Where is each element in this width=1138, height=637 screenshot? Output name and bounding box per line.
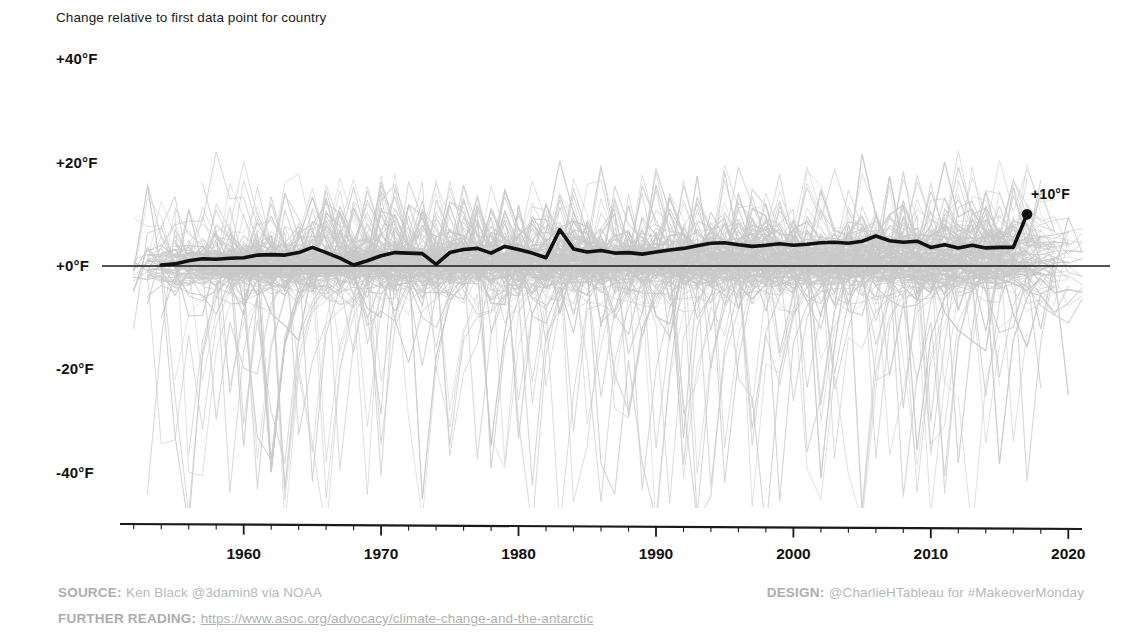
chart-footer: SOURCE: Ken Black @3damin8 via NOAA DESI…	[0, 575, 1138, 637]
x-axis-tick-label: 1980	[501, 545, 535, 563]
y-axis-tick-label: +0°F	[56, 257, 89, 274]
footer-design: DESIGN: @CharlieHTableau for #MakeoverMo…	[767, 583, 1084, 601]
footer-design-key: DESIGN:	[767, 585, 825, 600]
x-axis-tick-label: 1990	[639, 545, 673, 563]
footer-source-value: Ken Black @3damin8 via NOAA	[126, 585, 322, 600]
endpoint-value: +10°F	[1031, 186, 1070, 202]
y-axis-tick-label: -20°F	[56, 360, 94, 377]
footer-further-reading: FURTHER READING: https://www.asoc.org/ad…	[58, 609, 593, 627]
x-axis-tick-label: 2010	[914, 545, 948, 563]
footer-design-value: @CharlieHTableau for #MakeoverMonday	[829, 585, 1084, 600]
x-axis-tick-label: 1970	[364, 545, 398, 563]
footer-reading-link[interactable]: https://www.asoc.org/advocacy/climate-ch…	[201, 611, 594, 626]
x-axis-tick-label: 1960	[226, 545, 260, 563]
chart-plot-area	[0, 0, 1138, 637]
y-axis-tick-label: +20°F	[56, 154, 98, 171]
x-axis-tick-label: 2000	[776, 545, 810, 563]
y-axis-tick-label: +40°F	[56, 50, 98, 67]
footer-source-key: SOURCE:	[58, 585, 122, 600]
chart-container: Change relative to first data point for …	[0, 0, 1138, 637]
footer-reading-key: FURTHER READING:	[58, 611, 196, 626]
y-axis-tick-label: -40°F	[56, 464, 94, 481]
footer-source: SOURCE: Ken Black @3damin8 via NOAA	[58, 583, 322, 601]
x-axis-tick-label: 2020	[1051, 545, 1085, 563]
